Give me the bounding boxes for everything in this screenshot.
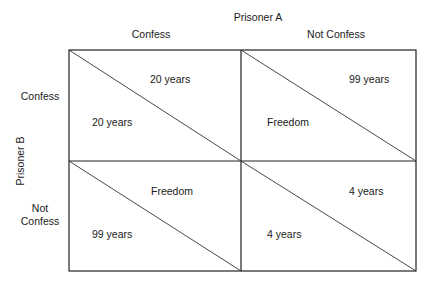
- column-strategy-not-confess: Not Confess: [307, 29, 365, 40]
- payoff-a-notconfess-notconfess: 4 years: [349, 186, 383, 197]
- cell-diagonal: [241, 161, 416, 271]
- payoff-b-notconfess-notconfess: 4 years: [267, 229, 301, 240]
- row-strategy-line: Confess: [21, 90, 60, 103]
- cell-diagonal: [69, 161, 241, 271]
- column-player-label: Prisoner A: [234, 12, 282, 23]
- cell-diagonal: [69, 50, 241, 161]
- payoff-a-notconfess-confess: Freedom: [151, 186, 193, 197]
- payoff-b-confess-notconfess: Freedom: [267, 117, 309, 128]
- payoff-a-confess-notconfess: 99 years: [349, 74, 389, 85]
- cell-diagonal: [241, 50, 416, 161]
- row-strategy-line: Not: [21, 202, 60, 215]
- column-strategy-confess: Confess: [132, 29, 171, 40]
- payoff-b-notconfess-confess: 99 years: [92, 229, 132, 240]
- row-strategy-not-confess: Not Confess: [21, 202, 60, 228]
- row-strategy-confess: Confess: [21, 90, 60, 103]
- payoff-b-confess-confess: 20 years: [92, 117, 132, 128]
- row-player-label: Prisoner B: [15, 136, 26, 185]
- payoff-grid: [0, 0, 430, 287]
- payoff-a-confess-confess: 20 years: [150, 74, 190, 85]
- row-strategy-line: Confess: [21, 215, 60, 228]
